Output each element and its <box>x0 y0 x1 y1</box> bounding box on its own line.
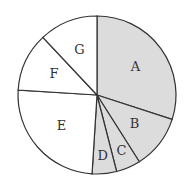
slice-label-a: A <box>130 59 141 74</box>
slice-label-d: D <box>98 148 108 163</box>
slice-label-c: C <box>116 143 126 158</box>
slice-label-e: E <box>57 118 67 133</box>
slice-label-f: F <box>50 66 59 81</box>
slice-label-g: G <box>74 42 84 57</box>
pie-chart: ABCDEFG <box>0 0 186 189</box>
slice-label-b: B <box>130 116 140 131</box>
